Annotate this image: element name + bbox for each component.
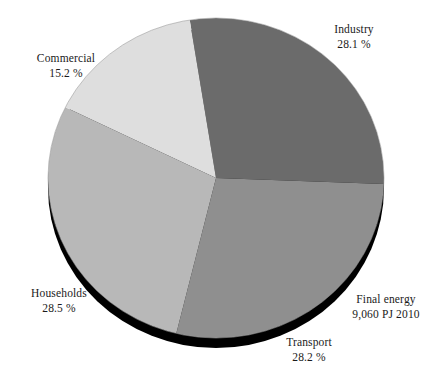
- chart-total-value: 9,060 PJ 2010: [330, 307, 442, 322]
- slice-label-industry-name: Industry: [306, 22, 402, 37]
- slice-label-households: Households 28.5 %: [6, 286, 112, 315]
- slice-label-households-name: Households: [6, 286, 112, 301]
- slice-label-transport-name: Transport: [262, 335, 356, 350]
- pie-chart: Industry 28.1 % Commercial 15.2 % Househ…: [0, 0, 445, 378]
- chart-total-name: Final energy: [330, 292, 442, 307]
- slice-label-commercial-value: 15.2 %: [12, 66, 120, 81]
- slice-label-transport-value: 28.2 %: [262, 350, 356, 365]
- slice-label-commercial-name: Commercial: [12, 51, 120, 66]
- slice-label-transport: Transport 28.2 %: [262, 335, 356, 364]
- slice-label-industry-value: 28.1 %: [306, 37, 402, 52]
- slice-label-industry: Industry 28.1 %: [306, 22, 402, 51]
- chart-total-label: Final energy 9,060 PJ 2010: [330, 292, 442, 321]
- slice-label-commercial: Commercial 15.2 %: [12, 51, 120, 80]
- slice-label-households-value: 28.5 %: [6, 301, 112, 316]
